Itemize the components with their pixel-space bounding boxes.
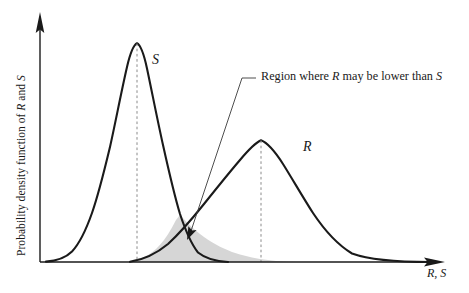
y-axis-title-conj: and <box>15 84 27 101</box>
y-axis-title-var-r: R <box>15 104 27 111</box>
y-axis-title-var-s: S <box>15 75 27 81</box>
annotation-var-r: R <box>332 69 339 83</box>
curve-label-s: S <box>152 53 159 67</box>
annotation-middle: may be lower than <box>340 69 436 83</box>
curve-label-r: R <box>303 140 312 154</box>
annotation-label: Region where R may be lower than S <box>261 70 442 82</box>
y-axis-title-plain: Probability density function of <box>15 114 27 256</box>
plot-canvas <box>0 0 469 293</box>
annotation-prefix: Region where <box>261 69 332 83</box>
probability-density-figure: Probability density function of R and S … <box>0 0 469 293</box>
y-axis-title: Probability density function of R and S <box>16 6 32 256</box>
x-axis-title: R, S <box>427 267 446 279</box>
annotation-var-s: S <box>436 69 442 83</box>
